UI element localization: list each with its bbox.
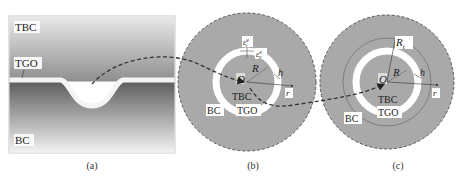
label-radius-b: R xyxy=(251,62,259,74)
diagram-canvas: TBC TGO BC (a) εgr εgθ R r h O TBC TGO B… xyxy=(0,0,464,178)
label-tbc-a: TBC xyxy=(15,21,36,33)
label-bc-b: BC xyxy=(207,105,221,116)
label-tgo-b: TGO xyxy=(237,105,258,116)
panel-a: TBC TGO BC (a) xyxy=(9,16,175,172)
label-thickness-b: h xyxy=(278,67,283,78)
label-tbc-c: TBC xyxy=(378,94,398,105)
panel-c: Rt R r h O TBC TGO BC (c) xyxy=(320,15,454,172)
label-bc-a: BC xyxy=(15,134,30,146)
label-tbc-b: TBC xyxy=(232,91,252,102)
panel-b: εgr εgθ R r h O TBC TGO BC (b) xyxy=(178,13,316,172)
label-origin-b: O xyxy=(237,73,245,85)
caption-a: (a) xyxy=(86,160,97,172)
label-r-axis-c: r xyxy=(433,88,437,98)
caption-c: (c) xyxy=(392,160,403,172)
caption-b: (b) xyxy=(247,160,259,172)
label-bc-c: BC xyxy=(345,113,359,124)
label-radius-c: R xyxy=(392,66,400,78)
label-r-axis-b: r xyxy=(286,88,290,98)
label-tgo-c: TGO xyxy=(378,107,399,118)
label-thickness-c: h xyxy=(420,67,425,78)
label-origin-c: O xyxy=(379,73,387,85)
label-tgo-a: TGO xyxy=(15,57,38,69)
